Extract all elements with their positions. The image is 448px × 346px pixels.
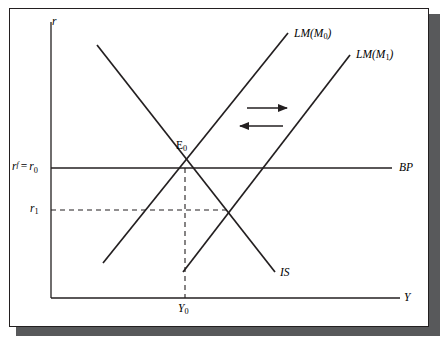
curve-label-lm-m1: LM(M1) [356, 49, 393, 63]
lm-m1-var: M [376, 48, 386, 60]
tick-label-r-one: r1 [30, 203, 39, 217]
r-foreign-equals: = [21, 160, 28, 172]
y-zero-subscript: 0 [184, 307, 188, 316]
curve-label-bp: BP [399, 162, 413, 174]
tick-label-r-foreign: rf=r0 [12, 161, 38, 175]
y-axis-label: r [52, 16, 56, 28]
lm-m0-var: M [314, 27, 324, 39]
equilibrium-label-e0: E0 [176, 140, 187, 154]
lm-m0-paren-close: ) [328, 27, 332, 39]
r-zero-subscript: 0 [34, 166, 38, 175]
lm-m1-curve [183, 55, 350, 272]
figure-root: r Y rf=r0 r1 Y0 E0 LM(M0) LM(M1) IS BP [0, 0, 448, 346]
lm-m0-main: LM [294, 27, 310, 39]
e0-subscript: 0 [183, 144, 187, 153]
tick-label-y-zero: Y0 [178, 303, 189, 317]
lm-m0-curve [103, 33, 288, 263]
x-axis-label: Y [404, 292, 410, 304]
r-foreign-superscript: f [16, 160, 18, 169]
lm-m1-paren-close: ) [390, 48, 394, 60]
curve-label-is: IS [280, 267, 290, 279]
e0-symbol: E [176, 139, 183, 151]
r-one-subscript: 1 [34, 207, 38, 216]
lm-m1-main: LM [356, 48, 372, 60]
curve-label-lm-m0: LM(M0) [294, 28, 331, 42]
